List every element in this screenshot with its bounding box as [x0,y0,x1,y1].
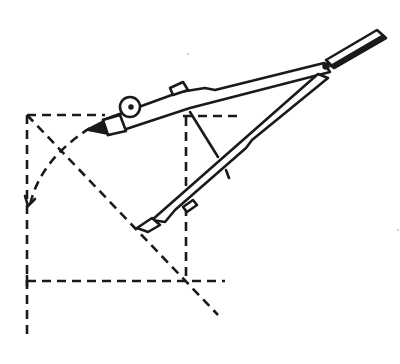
compass-cross-brace [190,112,218,157]
compass-construction-drawing [0,0,400,364]
speck [187,53,189,55]
speck [397,229,399,231]
knob-center [129,105,133,109]
compass-hinge [323,63,329,69]
dashed-diagonal [27,115,218,315]
needle-screw [226,170,229,178]
compass [86,30,386,232]
dashed-arc [30,128,90,205]
pencil-lead-tip [86,121,107,134]
construction-lines [25,115,240,335]
